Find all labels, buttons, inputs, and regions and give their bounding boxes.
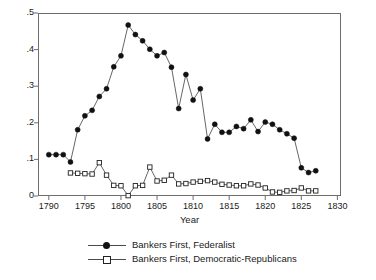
chart-legend: Bankers First, Federalist Bankers First,… bbox=[0, 238, 376, 266]
x-axis-tick-label: 1830 bbox=[317, 201, 357, 211]
legend-key-filled-circle-icon bbox=[88, 239, 126, 251]
x-axis-tick-label: 1805 bbox=[137, 201, 177, 211]
x-axis-tick-label: 1825 bbox=[281, 201, 321, 211]
x-axis-tick-label: 1815 bbox=[209, 201, 249, 211]
y-axis-tick-label: .1 bbox=[4, 154, 34, 163]
y-axis-tick-label: 0 bbox=[4, 191, 34, 200]
x-axis-tick-label: 1820 bbox=[245, 201, 285, 211]
legend-item-federalist[interactable]: Bankers First, Federalist bbox=[88, 238, 235, 252]
x-axis-tick-label: 1790 bbox=[29, 201, 69, 211]
y-axis-tick-label: .4 bbox=[4, 45, 34, 54]
x-axis-title: Year bbox=[38, 214, 341, 225]
legend-key-hollow-square-icon bbox=[88, 253, 126, 265]
y-axis-tick-label: .2 bbox=[4, 118, 34, 127]
y-axis-tick-label: .5 bbox=[4, 8, 34, 17]
x-axis-tick-label: 1795 bbox=[65, 201, 105, 211]
legend-label-democratic-republicans: Bankers First, Democratic-Republicans bbox=[132, 253, 297, 265]
x-axis-tick-label: 1800 bbox=[101, 201, 141, 211]
legend-label-federalist: Bankers First, Federalist bbox=[132, 239, 235, 251]
x-axis-tick-labels: 179017951800180518101815182018251830 bbox=[0, 201, 376, 215]
plot-area-frame bbox=[38, 13, 341, 196]
legend-item-democratic-republicans[interactable]: Bankers First, Democratic-Republicans bbox=[88, 252, 297, 266]
y-axis-tick-label: .3 bbox=[4, 81, 34, 90]
chart-figure: 0.1.2.3.4.5 1790179518001805181018151820… bbox=[0, 0, 376, 280]
x-axis-tick-label: 1810 bbox=[173, 201, 213, 211]
